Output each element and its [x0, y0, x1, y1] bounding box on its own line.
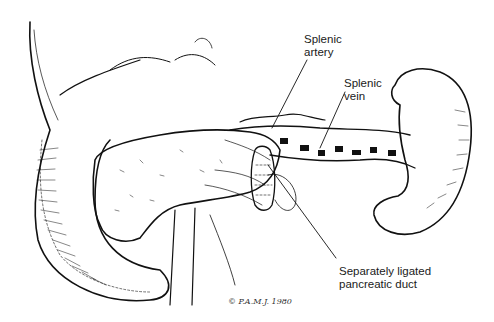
label-line: artery: [304, 46, 342, 59]
label-line: Separately ligated: [339, 265, 431, 278]
label-line: Splenic: [304, 33, 342, 46]
pointer-pancreatic-duct: [268, 165, 336, 258]
label-line: Splenic: [344, 77, 382, 90]
label-line: pancreatic duct: [339, 278, 431, 291]
pointer-splenic-artery: [272, 60, 307, 128]
label-splenic-vein: Splenic vein: [344, 77, 382, 103]
label-splenic-artery: Splenic artery: [304, 33, 342, 59]
artist-signature: © P.A.M.J. 1980: [228, 297, 292, 306]
duodenum: [30, 22, 169, 301]
label-pancreatic-duct: Separately ligated pancreatic duct: [339, 265, 431, 291]
label-line: vein: [344, 90, 382, 103]
anatomical-illustration: Splenic artery Splenic vein Separately l…: [0, 0, 494, 322]
